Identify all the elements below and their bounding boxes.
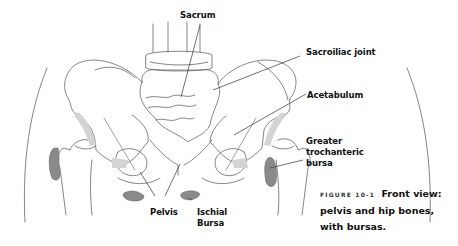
caption-line-1: Front view:	[381, 188, 441, 199]
sacrum-bone	[140, 70, 220, 143]
sacral-foramen-3	[156, 118, 194, 120]
figure-caption: FIGURE 10-1 Front view: pelvis and hip b…	[320, 186, 450, 235]
leader-pelvis-1	[140, 172, 155, 196]
body-outline-left	[24, 68, 47, 222]
right-greater-trochanteric-bursa	[265, 157, 277, 186]
right-ilium	[210, 60, 296, 164]
pelvis-hip-illustration: Sacrum Sacroiliac joint Acetabulum Great…	[0, 0, 458, 246]
sacral-foramen-1	[146, 95, 195, 98]
left-greater-trochanteric-bursa	[49, 148, 60, 180]
sacral-foramen-2	[148, 105, 196, 108]
leader-sacrum	[181, 25, 200, 97]
label-acetabulum: Acetabulum	[307, 90, 363, 101]
left-femur	[58, 140, 96, 215]
caption-line-3: with bursas.	[320, 219, 450, 235]
pubic-symphysis	[150, 140, 212, 175]
caption-line-2: pelvis and hip bones,	[320, 203, 450, 219]
label-ischial-bursa: Ischial Bursa	[197, 207, 227, 229]
label-pelvis: Pelvis	[150, 207, 178, 218]
label-greater-trochanteric-bursa: Greater trochanteric bursa	[306, 136, 364, 169]
label-sacroiliac-joint: Sacroiliac joint	[306, 47, 376, 58]
label-sacrum: Sacrum	[180, 10, 215, 21]
figure-number: FIGURE 10-1	[320, 191, 375, 198]
left-ischial-bursa	[123, 191, 144, 201]
left-ilium	[65, 60, 149, 165]
right-femur	[272, 139, 310, 215]
leader-pelvis-2	[165, 164, 180, 196]
right-ischial-bursa	[181, 191, 200, 200]
